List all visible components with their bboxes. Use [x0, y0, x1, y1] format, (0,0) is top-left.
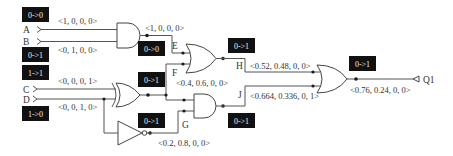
net-h-label: H [236, 61, 243, 71]
net-g-transition-box: 0->1 [138, 113, 165, 128]
wire-f-to-and [166, 95, 194, 100]
net-j-vector: <0.664, 0.336, 0, 1> [250, 91, 319, 101]
and-gate-2 [194, 94, 216, 118]
svg-text:0->1: 0->1 [144, 117, 159, 126]
svg-text:0->1: 0->1 [234, 117, 249, 126]
svg-text:0->1: 0->1 [355, 60, 370, 69]
input-terminal-icons [33, 27, 41, 103]
input-a-label: A [23, 25, 30, 35]
svg-text:0->0: 0->0 [144, 45, 159, 54]
svg-text:0->1: 0->1 [144, 76, 159, 85]
junction-dot-f [164, 93, 167, 96]
output-q1-vector: <0.76, 0.24, 0, 0> [350, 85, 411, 95]
svg-text:1->1: 1->1 [28, 69, 43, 78]
net-f-label: F [172, 68, 177, 78]
net-e-label: E [172, 41, 178, 51]
svg-text:0->1: 0->1 [234, 42, 249, 51]
junction-dot-or2-out [354, 77, 358, 81]
input-b-label: B [23, 37, 29, 47]
input-a-vector: <1, 0, 0, 0> [58, 16, 98, 26]
and-gate-1 [117, 23, 140, 48]
output-q1-transition-box: 0->1 [349, 56, 376, 71]
junction-dot-xor-out [146, 93, 150, 97]
net-f-vector: <0.4, 0.6, 0, 0> [176, 78, 228, 88]
net-f-transition-box: 0->1 [138, 72, 165, 87]
net-e-transition-box: 0->0 [138, 41, 165, 56]
input-d-label: D [23, 95, 30, 105]
net-g-label: G [182, 120, 189, 130]
output-q1-label: Q1 [423, 75, 435, 85]
net-h-vector: <0.52, 0.48, 0, 0> [250, 61, 311, 71]
junction-dot-d [102, 97, 105, 100]
input-c-transition-box: 1->1 [22, 65, 49, 80]
net-h-transition-box: 0->1 [228, 38, 255, 53]
svg-text:0->0: 0->0 [28, 11, 43, 20]
net-j-label: J [238, 90, 242, 100]
svg-text:0->1: 0->1 [28, 51, 43, 60]
or-gate-2 [317, 65, 347, 93]
svg-text:1->0: 1->0 [28, 110, 43, 119]
input-b-vector: <0, 1, 0, 0> [58, 45, 98, 55]
input-a-transition-box: 0->0 [22, 7, 49, 22]
input-c-label: C [23, 85, 29, 95]
or-gate-1 [186, 44, 216, 73]
net-j-transition-box: 0->1 [228, 113, 255, 128]
input-b-transition-box: 0->1 [22, 47, 49, 62]
net-g-vector: <0.2, 0.8, 0, 0> [158, 138, 210, 148]
xor-gate [112, 83, 140, 107]
input-d-vector: <0, 0, 1, 0> [58, 102, 98, 112]
output-terminal-icon [413, 76, 419, 82]
input-d-transition-box: 1->0 [22, 106, 49, 121]
input-c-vector: <0, 0, 0, 1> [58, 76, 98, 86]
junction-dot-and1-out [145, 34, 149, 38]
logic-circuit-diagram: 0->0 0->1 1->1 1->0 A B C D <1, 0, 0, 0>… [0, 0, 453, 156]
wire-d-branch [104, 99, 118, 133]
net-e-vector: <1, 0, 0, 0> [145, 23, 185, 33]
